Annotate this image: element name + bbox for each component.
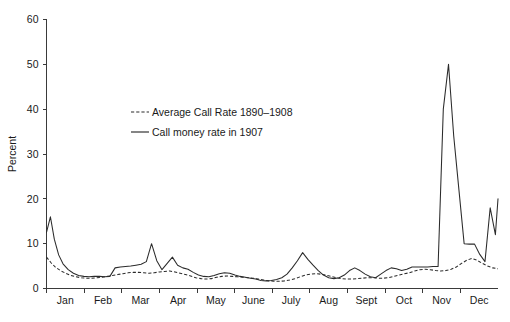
x-tick-label: Apr — [170, 294, 187, 306]
x-tick-label: May — [206, 294, 227, 306]
x-tick-label: June — [242, 294, 265, 306]
x-tick-label: Oct — [396, 294, 412, 306]
chart-legend: Average Call Rate 1890–1908Call money ra… — [131, 106, 293, 138]
series-line-2 — [47, 64, 499, 281]
x-tick-label: Jan — [57, 294, 74, 306]
chart-container: 0102030405060 JanFebMarAprMayJuneJulyAug… — [0, 0, 510, 322]
x-tick-label: Nov — [432, 294, 451, 306]
series-group — [47, 64, 499, 281]
x-tick-label: Dec — [470, 294, 489, 306]
x-tick-label: Aug — [319, 294, 338, 306]
x-tick-label: Mar — [132, 294, 151, 306]
y-tick-label: 60 — [27, 13, 39, 25]
x-tick-label: Sept — [356, 294, 378, 306]
x-tick-label: July — [282, 294, 301, 306]
legend-label: Call money rate in 1907 — [152, 126, 263, 138]
y-tick-label: 10 — [27, 237, 39, 249]
y-tick-label: 20 — [27, 193, 39, 205]
y-axis-title: Percent — [6, 136, 18, 172]
y-tick-label: 0 — [33, 282, 39, 294]
line-chart: 0102030405060 JanFebMarAprMayJuneJulyAug… — [0, 0, 510, 322]
y-tick-label: 30 — [27, 148, 39, 160]
y-tick-label: 50 — [27, 58, 39, 70]
y-tick-label: 40 — [27, 103, 39, 115]
x-axis-tick-group: JanFebMarAprMayJuneJulyAugSeptOctNovDec — [47, 289, 489, 306]
y-axis-tick-group: 0102030405060 — [27, 13, 47, 294]
legend-label: Average Call Rate 1890–1908 — [152, 106, 293, 118]
x-tick-label: Feb — [94, 294, 112, 306]
